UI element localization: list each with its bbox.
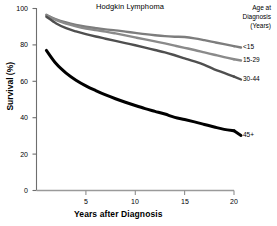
y-tick-label-80: 80 xyxy=(6,41,28,48)
legend-title-line-2: Diagnosis xyxy=(217,14,271,21)
x-axis-label: Years after Diagnosis xyxy=(74,210,163,219)
legend-connector-1529 xyxy=(234,59,241,60)
y-tick-label-100: 100 xyxy=(6,5,28,12)
y-tick-marks xyxy=(33,9,37,191)
legend-connector-45 xyxy=(234,131,241,136)
y-axis-label: Survival (%) xyxy=(6,56,15,116)
series-line-1529 xyxy=(46,15,234,59)
series-label-under-15: <15 xyxy=(243,44,254,51)
y-tick-label-40: 40 xyxy=(6,114,28,121)
x-tick-label-10: 10 xyxy=(127,198,143,205)
legend-connector-3044 xyxy=(234,77,241,80)
series-layer xyxy=(46,15,234,131)
legend-title-line-3: (Years) xyxy=(217,23,271,30)
chart-title: Hodgkin Lymphoma xyxy=(96,3,164,11)
series-label-15-29: 15-29 xyxy=(243,57,260,64)
y-tick-label-60: 60 xyxy=(6,78,28,85)
survival-curve-plot xyxy=(0,0,277,226)
series-label-30-44: 30-44 xyxy=(243,76,260,83)
legend-connector-15 xyxy=(234,46,241,47)
series-line-45 xyxy=(46,50,234,130)
series-label-45-plus: 45+ xyxy=(243,132,254,139)
x-tick-label-20: 20 xyxy=(226,198,242,205)
x-tick-label-15: 15 xyxy=(177,198,193,205)
x-tick-label-5: 5 xyxy=(78,198,94,205)
legend-title-line-1: Age at xyxy=(217,5,271,12)
legend-swatches xyxy=(234,46,241,135)
y-tick-label-20: 20 xyxy=(6,151,28,158)
y-tick-label-0: 0 xyxy=(6,187,28,194)
chart-container: Hodgkin Lymphoma Years after Diagnosis S… xyxy=(0,0,277,226)
